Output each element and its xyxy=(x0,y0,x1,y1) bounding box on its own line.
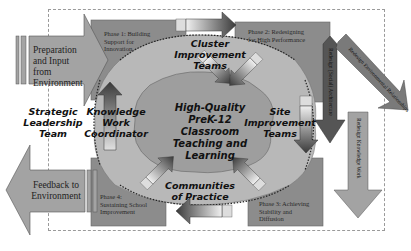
phase2-label: Phase 2: Redesigning for High Performanc… xyxy=(248,28,328,43)
knowledge-work-label: Redesign Knowledge Work xyxy=(356,118,362,179)
feedback-arrow-label: Feedback to Environment xyxy=(30,180,82,202)
cluster-arrow-icon xyxy=(186,12,236,38)
phase1-label: Phase 1: Building Support for Innovation xyxy=(104,30,174,53)
input-arrow-label: Preparation and Input from Environment xyxy=(33,45,89,89)
cluster-improvement-teams: Cluster Improvement Teams xyxy=(170,38,250,71)
phase4-label: Phase 4: Sustaining School Improvement xyxy=(100,193,164,216)
center-goal: High-Quality PreK-12 Classroom Teaching … xyxy=(165,102,255,162)
strategic-leadership-team: Strategic Leadership Team xyxy=(18,106,88,139)
social-architecture-label: Redesign (Social) Architecture xyxy=(328,48,334,116)
communities-of-practice: Communities of Practice xyxy=(160,180,240,202)
knowledge-work-coordinator: Knowledge Work Coordinator xyxy=(80,106,152,139)
phase3-label: Phase 3: Achieving Stability and Diffusi… xyxy=(259,200,323,223)
